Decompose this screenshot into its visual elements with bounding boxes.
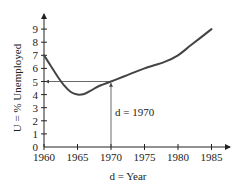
x-tick-label: 1970 <box>100 151 123 163</box>
x-axis-label: d = Year <box>109 170 146 182</box>
y-tick-label: 9 <box>33 23 39 35</box>
axes <box>44 14 230 147</box>
x-tick-label: 1980 <box>167 151 190 163</box>
y-tick-label: 6 <box>33 62 39 74</box>
x-tick-label: 1985 <box>201 151 224 163</box>
y-tick-label: 3 <box>33 102 39 114</box>
x-tick-label: 1975 <box>134 151 157 163</box>
ticks: 1960196519701975198019850123456789 <box>33 23 224 163</box>
y-tick-label: 0 <box>33 141 39 153</box>
annotation-label: d = 1970 <box>115 106 155 118</box>
annotation: d = 1970 <box>46 82 155 148</box>
chart: 1960196519701975198019850123456789 d = 1… <box>0 0 244 188</box>
x-tick-label: 1965 <box>67 151 90 163</box>
y-tick-label: 1 <box>33 128 39 140</box>
y-tick-label: 2 <box>33 115 39 127</box>
y-tick-label: 5 <box>33 76 39 88</box>
y-tick-label: 7 <box>33 49 39 61</box>
y-tick-label: 4 <box>33 89 39 101</box>
series-line <box>44 29 212 95</box>
y-tick-label: 8 <box>33 36 39 48</box>
y-axis-label: U = % Unemployed <box>11 43 23 132</box>
series <box>44 29 212 95</box>
